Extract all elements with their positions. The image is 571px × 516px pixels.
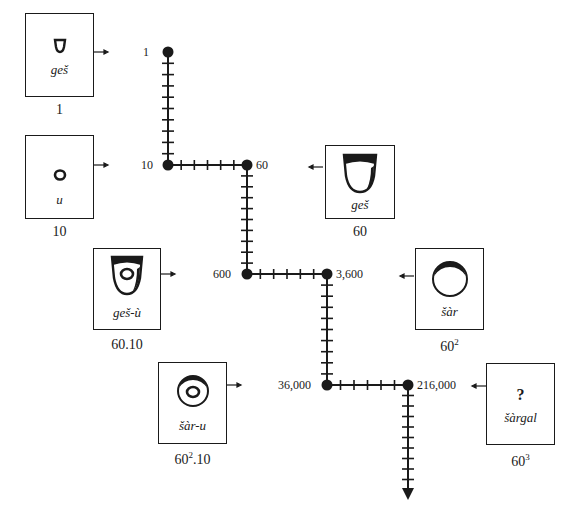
sign-reading: geš	[326, 197, 394, 213]
chain-node-icon	[163, 160, 174, 171]
chain-node-icon	[403, 380, 414, 391]
large-cone-icon	[340, 152, 380, 196]
sign-value: 602.10	[150, 450, 235, 468]
node-label-3600: 3,600	[336, 268, 363, 280]
sign-box-sar-u-36000: šàr-u	[158, 362, 227, 444]
large-cone-with-circle-icon	[108, 254, 146, 298]
chain-node-icon	[242, 269, 253, 280]
sign-reading: šàr	[416, 304, 483, 320]
sign-box-sar-3600: šàr	[415, 248, 484, 330]
node-label-600: 600	[213, 268, 231, 280]
sign-value: 10	[25, 224, 94, 240]
sign-value: 603	[486, 452, 555, 470]
sign-reading: geš-ù	[94, 305, 160, 321]
sign-value: 602	[415, 337, 484, 355]
sign-box-sargal-216000: ? šàrgal	[486, 363, 555, 445]
node-label-10: 10	[141, 159, 153, 171]
sign-reading: šàrgal	[487, 410, 554, 426]
sign-box-u-10: u	[25, 135, 94, 219]
sign-box-ges-1: geš	[25, 13, 94, 97]
chain-node-icon	[322, 380, 333, 391]
node-label-1: 1	[143, 46, 149, 58]
node-label-60: 60	[256, 159, 268, 171]
small-circle-icon	[53, 168, 67, 182]
large-circle-with-circle-icon	[175, 373, 211, 409]
node-label-36000: 36,000	[278, 379, 311, 391]
chain-node-icon	[322, 269, 333, 280]
unknown-sign-icon: ?	[487, 386, 554, 404]
sign-value: 60.10	[88, 337, 166, 353]
sign-box-ges-60: geš	[325, 145, 395, 219]
sign-value: 60	[325, 224, 395, 240]
sign-box-ges-u-600: geš-ù	[93, 248, 161, 330]
chain-node-icon	[242, 160, 253, 171]
chain-node-icon	[163, 47, 174, 58]
large-circle-icon	[430, 259, 470, 299]
small-cone-icon	[53, 38, 67, 54]
node-label-216000: 216,000	[417, 379, 456, 391]
chain-continue-arrow-icon	[402, 488, 414, 500]
sign-reading: geš	[26, 62, 93, 78]
sign-reading: u	[26, 192, 93, 208]
sign-reading: šàr-u	[159, 418, 226, 434]
sign-value: 1	[25, 102, 94, 118]
